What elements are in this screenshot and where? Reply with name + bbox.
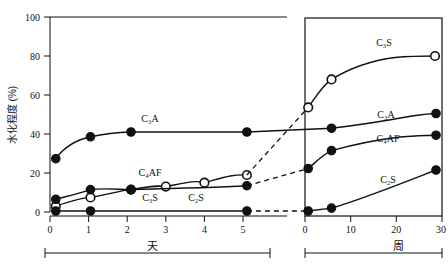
series-right-c3s: C₃S [304,37,439,112]
right-panel-brace [305,248,442,258]
datapoint-right-c3s-1 [327,75,336,84]
panel-bridge-connectors [247,107,308,211]
figure-root: 100 80 60 40 20 0 水化程度 (%) 0 1 2 3 4 5 天 [0,0,448,279]
datapoint-right-c3a-0 [327,124,335,132]
y-ticklabel-40: 40 [30,129,40,140]
right-x-axis-title: 周 [393,240,404,252]
left-x-ticklabel-0: 0 [48,224,53,235]
left-x-ticklabel-5: 5 [241,224,246,235]
datapoint-left-c3s-1 [86,185,94,193]
series-left-c3a: C₃A [52,113,252,163]
datapoint-left-c4af-3 [162,182,171,191]
datapoint-left-c3a-1 [86,133,94,141]
datapoint-left-c4af-4 [200,178,209,187]
right-panel-frame [305,18,442,216]
curve-label-left-c4af: C₄AF [139,167,162,178]
datapoint-left-c3s-0 [52,195,60,203]
right-panel-box [305,18,442,216]
y-ticklabel-80: 80 [30,51,40,62]
datapoint-right-c2s-1 [327,204,335,212]
left-x-ticklabel-1: 1 [86,224,91,235]
y-ticklabel-60: 60 [30,90,40,101]
y-axis-title: 水化程度 (%) [6,86,18,144]
right-x-axis: 0 10 20 30 周 [303,216,447,258]
left-x-ticklabel-3: 3 [163,224,168,235]
right-x-ticklabel-10: 10 [346,224,356,235]
left-x-axis-title: 天 [147,240,158,252]
datapoint-left-c3a-0 [52,155,60,163]
y-ticklabel-100: 100 [25,12,40,23]
datapoint-left-c3a-2 [127,128,135,136]
right-x-ticklabel-0: 0 [303,224,308,235]
series-right-c2s-line [308,170,436,211]
curve-label-left-c3a: C₃A [141,113,159,124]
datapoint-right-c2s-2 [432,166,440,174]
y-axis: 100 80 60 40 20 0 水化程度 (%) [6,12,50,218]
datapoint-right-c2s-0 [304,207,312,215]
series-right-c2s: C₂S [304,166,440,215]
curve-label-right-c3a: C₃A [377,109,395,120]
datapoint-right-c3s-2 [431,52,440,61]
right-x-ticklabel-20: 20 [391,224,401,235]
datapoint-right-c4af-1 [327,146,335,154]
curve-label-right-c3s: C₃S [376,37,392,48]
left-x-axis: 0 1 2 3 4 5 天 [45,216,287,258]
datapoint-left-c2s-0 [52,207,60,215]
curve-label-right-c4af: C₄AF [377,133,400,144]
curve-label-right-c2s: C₂S [380,174,396,185]
right-x-ticklabel-30: 30 [436,224,446,235]
datapoint-right-c4af-2 [432,131,440,139]
series-right-c3a-line [247,114,436,133]
bridge-c3s-dashed [247,107,308,175]
series-right-c3a: C₃A [247,109,440,132]
y-ticklabel-20: 20 [30,168,40,179]
series-right-c4af: C₄AF [304,131,440,173]
curve-label-left-c2s: C₂S [188,192,204,203]
series-left-c3s: C₃S [52,182,252,204]
y-ticklabel-0: 0 [35,207,40,218]
series-left-c3a-line [56,132,247,159]
datapoint-left-c3s-2 [127,185,135,193]
left-panel-brace [45,248,270,258]
hydration-chart: 100 80 60 40 20 0 水化程度 (%) 0 1 2 3 4 5 天 [0,0,448,279]
datapoint-right-c3a-1 [432,109,440,117]
left-x-ticklabel-4: 4 [202,224,207,235]
datapoint-right-c4af-0 [304,164,312,172]
left-x-ticklabel-2: 2 [125,224,130,235]
datapoint-left-c2s-1 [86,207,94,215]
datapoint-right-c3s-0 [304,103,313,112]
curve-label-left-c3s: C₃S [142,192,158,203]
bridge-c4af-dashed [247,169,308,186]
